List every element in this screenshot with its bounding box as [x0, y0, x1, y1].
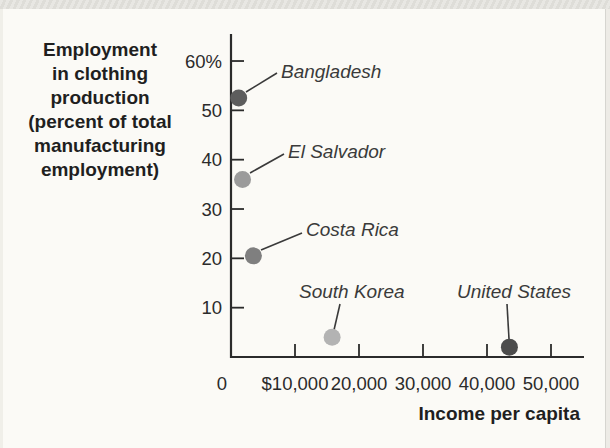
x-tick-label-30000: 30,000 [395, 373, 452, 394]
point-label-costa-rica: Costa Rica [306, 219, 399, 240]
y-tick-label-30: 30 [201, 199, 222, 220]
leader-line-united-states [507, 304, 509, 339]
y-tick-label-50: 50 [201, 100, 222, 121]
x-tick-label-40000: 40,000 [459, 373, 516, 394]
leader-line-south-korea [334, 304, 340, 330]
data-point-el-salvador [234, 171, 251, 188]
y-tick-label-10: 10 [201, 297, 222, 318]
data-point-united-states [501, 339, 518, 356]
point-label-bangladesh: Bangladesh [281, 61, 381, 82]
point-label-el-salvador: El Salvador [288, 141, 386, 162]
data-point-costa-rica [245, 247, 262, 264]
x-tick-label-50000: 50,000 [523, 373, 580, 394]
y-tick-label-60: 60% [185, 51, 222, 72]
y-tick-label-20: 20 [201, 248, 222, 269]
x-tick-label-0: 0 [217, 373, 227, 394]
data-point-south-korea [324, 329, 341, 346]
x-tick-label-20000: 20,000 [331, 373, 388, 394]
point-label-south-korea: South Korea [299, 281, 405, 302]
leader-line-el-salvador [250, 154, 284, 173]
leader-line-costa-rica [261, 233, 302, 250]
x-axis-title: Income per capita [418, 403, 580, 425]
scatter-chart: 102030405060%0$10,00020,00030,00040,0005… [0, 0, 610, 448]
point-label-united-states: United States [457, 281, 572, 302]
scanned-book-figure: Employment in clothing production (perce… [0, 0, 610, 448]
x-tick-label-10000: $10,000 [262, 373, 329, 394]
data-point-bangladesh [230, 90, 247, 107]
y-tick-label-40: 40 [201, 149, 222, 170]
leader-line-bangladesh [246, 73, 277, 92]
